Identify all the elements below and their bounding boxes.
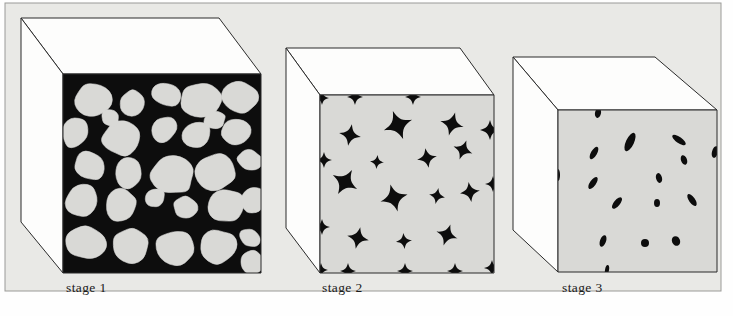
stage-3-front-face [558,110,717,272]
pore [641,239,649,247]
stages-layer [21,18,719,279]
stage-2-caption: stage 2 [322,280,363,295]
stage-1-caption: stage 1 [66,280,107,295]
figure-container: stage 1stage 2stage 3 [0,0,733,316]
stage-3-cube [513,57,719,275]
microstructure-figure: stage 1stage 2stage 3 [0,0,733,316]
particle [208,190,244,221]
stage-1-cube [21,18,266,274]
stage-2-top-face [286,48,494,95]
particle [145,189,164,207]
stage-3-caption: stage 3 [562,280,603,295]
pore [654,199,660,207]
stage-2-cube [286,48,501,279]
